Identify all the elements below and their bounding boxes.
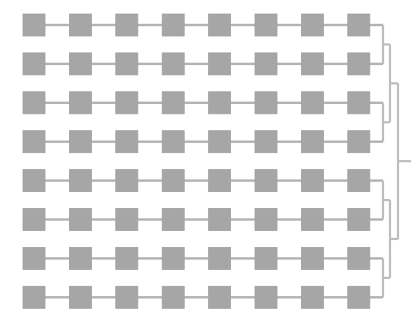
dendrogram-canvas	[0, 0, 419, 327]
dendrogram-node[interactable]	[116, 53, 138, 75]
dendrogram-node[interactable]	[162, 286, 184, 308]
bracket-layer	[383, 25, 411, 297]
dendrogram-node[interactable]	[209, 209, 231, 231]
dendrogram-node[interactable]	[255, 209, 277, 231]
dendrogram-node[interactable]	[162, 14, 184, 36]
dendrogram-node[interactable]	[301, 92, 323, 114]
dendrogram-node[interactable]	[255, 92, 277, 114]
dendrogram-node[interactable]	[348, 92, 370, 114]
dendrogram-node[interactable]	[255, 53, 277, 75]
dendrogram-node[interactable]	[23, 209, 45, 231]
dendrogram-node[interactable]	[301, 247, 323, 269]
dendrogram-node[interactable]	[301, 131, 323, 153]
dendrogram-node[interactable]	[255, 286, 277, 308]
dendrogram-diagram	[0, 0, 419, 327]
dendrogram-node[interactable]	[348, 170, 370, 192]
dendrogram-node[interactable]	[301, 209, 323, 231]
dendrogram-node[interactable]	[162, 131, 184, 153]
dendrogram-node[interactable]	[301, 170, 323, 192]
dendrogram-node[interactable]	[301, 53, 323, 75]
dendrogram-node[interactable]	[116, 286, 138, 308]
dendrogram-node[interactable]	[23, 170, 45, 192]
dendrogram-node[interactable]	[162, 209, 184, 231]
dendrogram-node[interactable]	[23, 247, 45, 269]
dendrogram-node[interactable]	[209, 14, 231, 36]
dendrogram-node[interactable]	[209, 170, 231, 192]
dendrogram-node[interactable]	[116, 14, 138, 36]
dendrogram-node[interactable]	[209, 131, 231, 153]
dendrogram-node[interactable]	[69, 92, 91, 114]
dendrogram-node[interactable]	[69, 286, 91, 308]
dendrogram-node[interactable]	[255, 170, 277, 192]
dendrogram-node[interactable]	[255, 14, 277, 36]
dendrogram-node[interactable]	[209, 53, 231, 75]
dendrogram-node[interactable]	[116, 92, 138, 114]
dendrogram-node[interactable]	[162, 92, 184, 114]
dendrogram-node[interactable]	[116, 247, 138, 269]
dendrogram-node[interactable]	[69, 14, 91, 36]
dendrogram-node[interactable]	[116, 209, 138, 231]
dendrogram-node[interactable]	[209, 92, 231, 114]
dendrogram-node[interactable]	[23, 53, 45, 75]
dendrogram-node[interactable]	[348, 53, 370, 75]
dendrogram-node[interactable]	[255, 247, 277, 269]
dendrogram-node[interactable]	[69, 131, 91, 153]
dendrogram-node[interactable]	[348, 247, 370, 269]
dendrogram-node[interactable]	[301, 286, 323, 308]
dendrogram-node[interactable]	[23, 131, 45, 153]
dendrogram-node[interactable]	[209, 247, 231, 269]
dendrogram-node[interactable]	[69, 209, 91, 231]
dendrogram-node[interactable]	[116, 131, 138, 153]
node-layer	[23, 14, 370, 308]
dendrogram-node[interactable]	[348, 14, 370, 36]
dendrogram-node[interactable]	[348, 286, 370, 308]
dendrogram-node[interactable]	[23, 92, 45, 114]
dendrogram-node[interactable]	[348, 131, 370, 153]
dendrogram-node[interactable]	[255, 131, 277, 153]
dendrogram-node[interactable]	[69, 53, 91, 75]
dendrogram-node[interactable]	[348, 209, 370, 231]
dendrogram-node[interactable]	[116, 170, 138, 192]
dendrogram-node[interactable]	[209, 286, 231, 308]
dendrogram-node[interactable]	[69, 170, 91, 192]
dendrogram-node[interactable]	[162, 170, 184, 192]
dendrogram-node[interactable]	[162, 247, 184, 269]
dendrogram-node[interactable]	[23, 286, 45, 308]
dendrogram-node[interactable]	[69, 247, 91, 269]
dendrogram-node[interactable]	[23, 14, 45, 36]
dendrogram-node[interactable]	[301, 14, 323, 36]
dendrogram-node[interactable]	[162, 53, 184, 75]
